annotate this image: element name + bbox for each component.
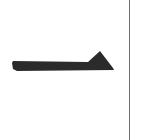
vertical-rule	[129, 0, 130, 140]
glyph-alt-text: Dark arrow-like glyph on white backgroun…	[0, 0, 32, 1]
glyph-canvas: Dark arrow-like glyph on white backgroun…	[0, 0, 142, 140]
glyph-layer	[0, 0, 142, 140]
